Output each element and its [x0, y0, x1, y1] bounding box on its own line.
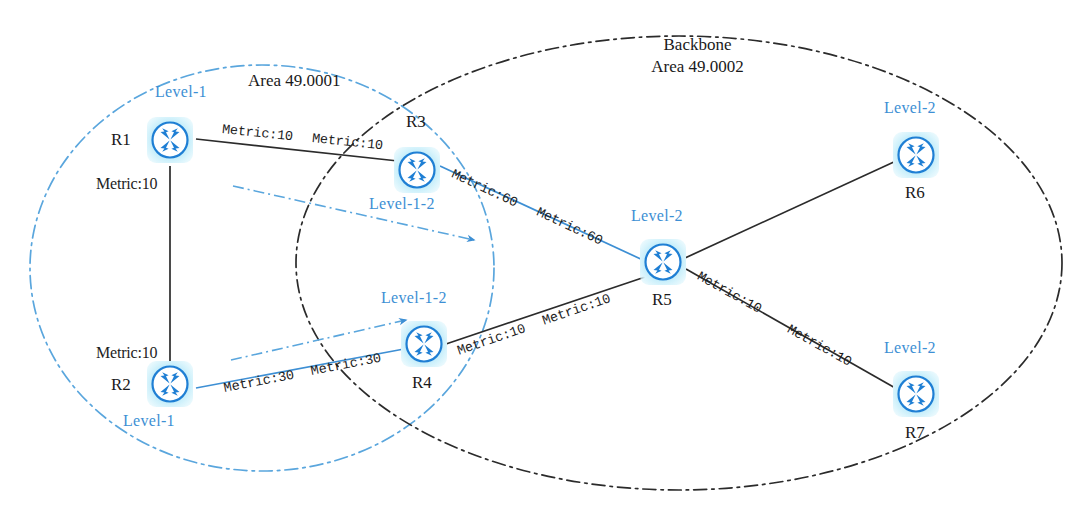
- router-node-r5[interactable]: [640, 239, 686, 285]
- router-label-r4: R4: [412, 374, 432, 391]
- router-node-r2[interactable]: [147, 361, 193, 407]
- backbone-label-line2: Area 49.0002: [640, 58, 755, 75]
- router-icon: [149, 119, 191, 161]
- router-icon: [396, 149, 438, 191]
- metric-label-r1-r2-a: Metric:10: [96, 176, 157, 192]
- router-label-r7: R7: [905, 424, 925, 441]
- link-r4-r5: [446, 276, 648, 344]
- router-icon: [895, 134, 937, 176]
- metric-label-r1-r2-b: Metric:10: [96, 345, 157, 361]
- router-label-r3: R3: [406, 113, 426, 130]
- router-node-r6[interactable]: [893, 132, 939, 178]
- router-icon: [149, 363, 191, 405]
- network-diagram-canvas: Area 49.0001 Backbone Area 49.0002 R1 Le…: [0, 0, 1065, 532]
- link-r5-r6: [685, 161, 896, 258]
- backbone-label: Backbone Area 49.0002: [640, 36, 755, 75]
- router-level-r5: Level-2: [631, 208, 683, 224]
- leak-arrow-upper: [233, 186, 474, 240]
- backbone-label-line1: Backbone: [640, 36, 755, 53]
- router-label-r5: R5: [652, 291, 672, 308]
- router-icon: [403, 323, 445, 365]
- router-level-r3: Level-1-2: [369, 196, 435, 212]
- router-level-r1: Level-1: [155, 84, 207, 100]
- area-49-0001-label: Area 49.0001: [248, 72, 341, 89]
- router-level-r6: Level-2: [884, 100, 936, 116]
- router-node-r7[interactable]: [893, 371, 939, 417]
- router-label-r6: R6: [905, 184, 925, 201]
- router-label-r1: R1: [111, 131, 131, 148]
- router-level-r2: Level-1: [123, 413, 175, 429]
- topology-svg: [0, 0, 1065, 532]
- router-node-r3[interactable]: [394, 147, 440, 193]
- router-icon: [642, 241, 684, 283]
- router-level-r7: Level-2: [884, 340, 936, 356]
- router-level-r4: Level-1-2: [381, 290, 447, 306]
- router-icon: [895, 373, 937, 415]
- router-node-r4[interactable]: [401, 321, 447, 367]
- router-node-r1[interactable]: [147, 117, 193, 163]
- router-label-r2: R2: [111, 376, 131, 393]
